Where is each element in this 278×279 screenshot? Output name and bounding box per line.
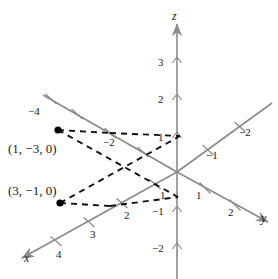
z-tick-label-neg2: −2	[152, 243, 164, 254]
x-tick-label-3: 3	[90, 229, 96, 240]
x-tick-label-1: 1	[160, 190, 166, 201]
dash-p2-a	[60, 203, 110, 206]
coordinate-figure: z y x 3 2 1 −1 −2 1 2 −1 −2 1 2 3 4 −4 −…	[0, 0, 278, 279]
axes-canvas	[0, 0, 278, 279]
z-tick-label-1: 1	[158, 132, 164, 143]
z-tick-label-neg1: −1	[152, 206, 164, 217]
dash-p1-a	[58, 130, 110, 133]
dash-p1-c	[110, 133, 180, 136]
y-axis-positive	[177, 172, 268, 222]
negx-tick-label-neg4: −4	[28, 106, 40, 117]
y-tick-label-2: 2	[228, 207, 234, 218]
y-tick-label-neg1: −1	[206, 150, 218, 161]
x-axis	[22, 94, 177, 258]
x-axis-ticks	[46, 94, 161, 246]
x-tick-label-4: 4	[56, 249, 62, 260]
point-dot-2[interactable]	[56, 199, 63, 206]
y-tick-label-neg2: −2	[239, 127, 251, 138]
y-axis-negative	[177, 103, 272, 172]
z-tick-label-2: 2	[158, 94, 164, 105]
x-axis-label: x	[24, 252, 29, 264]
x-tick-label-2: 2	[124, 210, 130, 221]
point-label-2: (3, −1, 0)	[8, 184, 57, 197]
negx-tick-label-neg2: −2	[103, 137, 115, 148]
y-axis	[177, 103, 272, 222]
y-tick-label-1: 1	[196, 190, 202, 201]
y-axis-label: y	[261, 212, 266, 224]
z-tick-label-3: 3	[158, 57, 164, 68]
point-label-1: (1, −3, 0)	[8, 142, 57, 155]
z-axis-label: z	[172, 10, 177, 22]
z-axis	[172, 24, 181, 279]
point-dot-1[interactable]	[54, 126, 61, 133]
